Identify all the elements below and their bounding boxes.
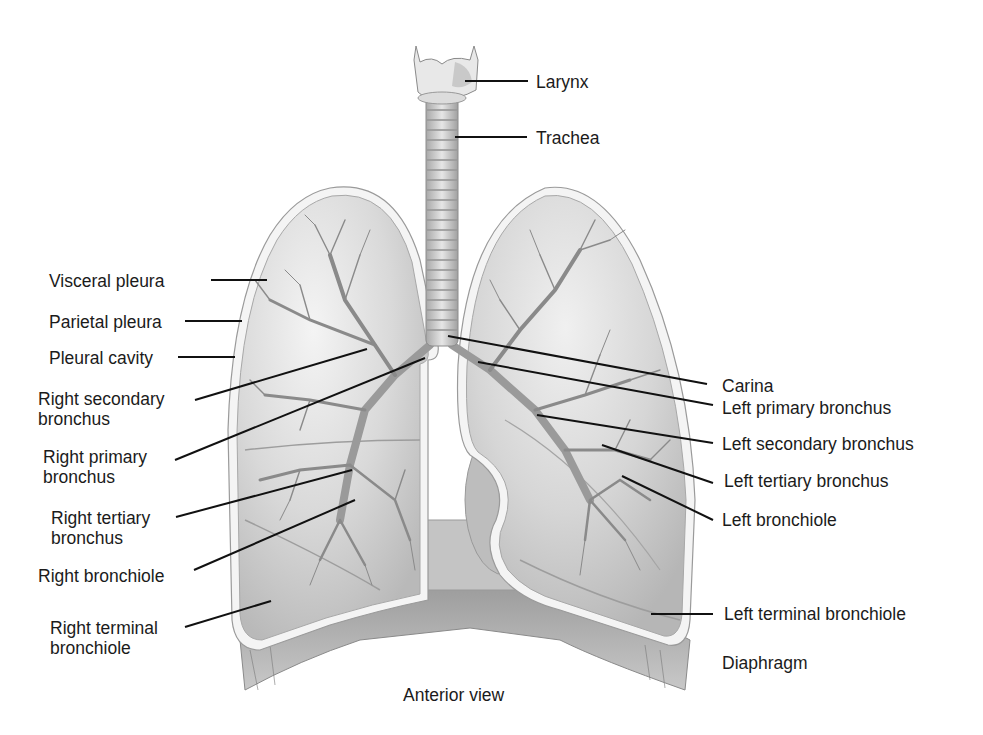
label-trachea: Trachea xyxy=(536,128,600,148)
label-visceral-pleura: Visceral pleura xyxy=(49,271,164,291)
label-left-secondary-bronchus: Left secondary bronchus xyxy=(722,434,914,454)
label-line: Right terminal xyxy=(50,618,158,638)
label-right-bronchiole: Right bronchiole xyxy=(38,566,164,586)
label-line: Right secondary xyxy=(38,389,164,409)
label-left-terminal-bronchiole: Left terminal bronchiole xyxy=(724,604,906,624)
larynx xyxy=(414,46,478,104)
caption-anterior-view: Anterior view xyxy=(403,685,504,705)
label-line: Right primary xyxy=(43,447,147,467)
right-lung xyxy=(228,187,438,650)
label-right-terminal-bronchiole: Right terminal bronchiole xyxy=(50,618,158,658)
label-left-bronchiole: Left bronchiole xyxy=(722,510,837,530)
label-line: bronchiole xyxy=(50,638,158,658)
label-pleural-cavity: Pleural cavity xyxy=(49,348,153,368)
label-larynx: Larynx xyxy=(536,72,589,92)
label-diaphragm: Diaphragm xyxy=(722,653,808,673)
label-right-tertiary-bronchus: Right tertiary bronchus xyxy=(51,508,150,548)
label-parietal-pleura: Parietal pleura xyxy=(49,312,162,332)
label-line: bronchus xyxy=(43,467,147,487)
label-left-tertiary-bronchus: Left tertiary bronchus xyxy=(724,471,888,491)
label-line: bronchus xyxy=(51,528,150,548)
label-carina: Carina xyxy=(722,376,774,396)
label-left-primary-bronchus: Left primary bronchus xyxy=(722,398,891,418)
label-line: bronchus xyxy=(38,409,164,429)
label-right-secondary-bronchus: Right secondary bronchus xyxy=(38,389,164,429)
trachea xyxy=(426,88,458,346)
label-right-primary-bronchus: Right primary bronchus xyxy=(43,447,147,487)
label-line: Right tertiary xyxy=(51,508,150,528)
